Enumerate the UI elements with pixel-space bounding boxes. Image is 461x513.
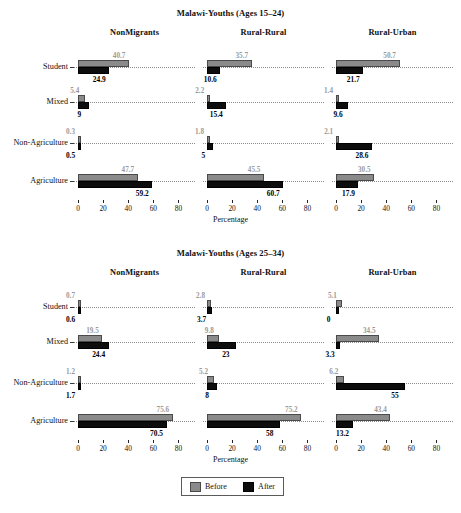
bar-before — [336, 95, 339, 102]
x-axis-tick — [436, 200, 437, 203]
value-label-before: 2.8 — [189, 292, 213, 300]
row-guide-line — [203, 143, 324, 144]
x-axis-tick-label: 0 — [327, 204, 345, 213]
bar-before — [336, 300, 342, 307]
x-axis-tick-label: 60 — [144, 204, 162, 213]
category-label-non-agriculture: Non-Agriculture — [0, 378, 68, 387]
x-axis-tick — [282, 200, 283, 203]
row-guide-line — [203, 307, 324, 308]
value-label-after: 59.2 — [130, 189, 154, 198]
x-axis-tick — [282, 440, 283, 443]
value-label-after: 70.5 — [145, 429, 169, 438]
bar-after — [207, 307, 212, 314]
value-label-after: 10.6 — [198, 75, 222, 84]
x-axis-tick — [257, 200, 258, 203]
x-axis-tick-label: 0 — [69, 444, 87, 453]
bar-before — [336, 414, 390, 421]
bar-before — [336, 335, 379, 342]
bar-after — [207, 383, 217, 390]
value-label-after: 28.6 — [350, 151, 374, 160]
value-label-before: 40.7 — [107, 52, 131, 60]
category-label-mixed: Mixed — [0, 97, 68, 106]
x-axis-tick-label: 40 — [248, 444, 266, 453]
value-label-before: 1.2 — [59, 368, 83, 376]
x-axis-title: Percentage — [0, 215, 461, 224]
x-axis-tick-label: 20 — [223, 444, 241, 453]
bar-after — [78, 143, 81, 150]
value-label-after: 1.7 — [59, 391, 83, 400]
x-axis-tick — [307, 440, 308, 443]
bar-before — [207, 414, 301, 421]
bar-before — [207, 60, 252, 67]
x-axis-tick-label: 20 — [94, 204, 112, 213]
facet-header-rural-urban: Rural-Urban — [306, 28, 461, 37]
x-axis-tick-label: 80 — [169, 444, 187, 453]
value-label-before: 0.3 — [59, 128, 83, 136]
value-label-after: 8 — [195, 391, 219, 400]
x-axis-tick — [411, 200, 412, 203]
row-guide-line — [74, 307, 195, 308]
category-label-non-agriculture: Non-Agriculture — [0, 138, 68, 147]
facet-header-rural-urban: Rural-Urban — [306, 268, 461, 277]
value-label-before: 6.2 — [322, 368, 346, 376]
row-guide-line — [74, 383, 195, 384]
x-axis-tick-label: 0 — [198, 444, 216, 453]
x-axis-tick — [361, 440, 362, 443]
x-axis-tick — [207, 440, 208, 443]
value-label-before: 75.2 — [279, 406, 303, 414]
bar-after — [78, 102, 89, 109]
bar-before — [207, 174, 264, 181]
value-label-after: 60.7 — [261, 189, 285, 198]
chart-legend: BeforeAfter — [181, 477, 284, 496]
value-label-before: 35.7 — [230, 52, 254, 60]
bar-before — [78, 335, 102, 342]
x-axis-tick — [103, 440, 104, 443]
row-guide-line — [74, 143, 195, 144]
x-axis-tick-label: 20 — [94, 444, 112, 453]
x-axis-tick-label: 0 — [69, 204, 87, 213]
x-axis-tick-label: 60 — [144, 444, 162, 453]
bar-before — [78, 136, 81, 143]
chart-title: Malawi-Youths (Ages 15–24) — [0, 8, 461, 18]
value-label-after: 0.5 — [59, 151, 83, 160]
legend-label-before: Before — [205, 482, 227, 491]
x-axis-title: Percentage — [0, 455, 461, 464]
x-axis-tick — [153, 200, 154, 203]
value-label-after: 9.6 — [326, 110, 350, 119]
x-axis-tick — [411, 440, 412, 443]
x-axis-tick-label: 60 — [402, 444, 420, 453]
x-axis-tick-label: 80 — [298, 444, 316, 453]
legend-item-before: Before — [190, 482, 227, 492]
row-guide-line — [332, 307, 453, 308]
x-axis-tick-label: 40 — [119, 204, 137, 213]
value-label-after: 24.9 — [87, 75, 111, 84]
bar-after — [336, 67, 363, 74]
value-label-after: 55 — [383, 391, 407, 400]
value-label-before: 50.7 — [378, 52, 402, 60]
legend-label-after: After — [258, 482, 275, 491]
value-label-after: 0 — [317, 315, 341, 324]
x-axis-tick — [336, 200, 337, 203]
bar-after — [78, 67, 109, 74]
x-axis-tick — [103, 200, 104, 203]
category-label-agriculture: Agriculture — [0, 176, 68, 185]
bar-before — [336, 136, 339, 143]
x-axis-tick-label: 40 — [119, 444, 137, 453]
x-axis-tick-label: 60 — [273, 204, 291, 213]
x-axis-tick-label: 20 — [352, 204, 370, 213]
x-axis-tick-label: 20 — [352, 444, 370, 453]
bar-after — [78, 307, 81, 314]
category-label-student: Student — [0, 62, 68, 71]
value-label-before: 75.6 — [151, 406, 175, 414]
value-label-after: 3.7 — [190, 315, 214, 324]
value-label-after: 23 — [214, 350, 238, 359]
bar-before — [207, 376, 214, 383]
bar-before — [78, 300, 81, 307]
value-label-before: 43.4 — [368, 406, 392, 414]
value-label-before: 34.5 — [357, 327, 381, 335]
bar-before — [336, 174, 374, 181]
bar-after — [336, 421, 353, 428]
bar-before — [207, 335, 219, 342]
value-label-after: 17.9 — [336, 189, 360, 198]
value-label-before: 1.4 — [317, 87, 341, 95]
